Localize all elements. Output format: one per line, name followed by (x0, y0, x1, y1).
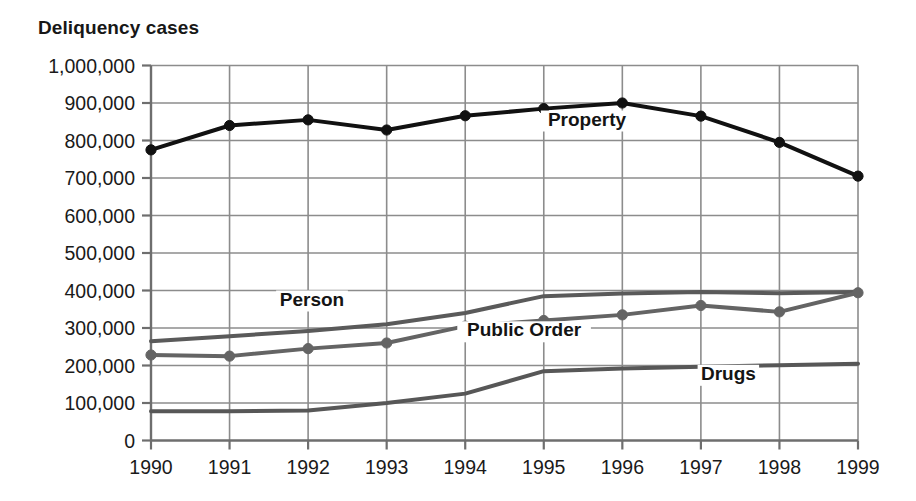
y-axis-tick-label: 900,000 (65, 92, 136, 114)
x-axis-tick-labels: 1990199119921993199419951996199719981999 (129, 456, 879, 478)
series-data-point (853, 288, 863, 298)
y-axis-tick-label: 700,000 (65, 167, 136, 189)
x-axis-tick-label: 1993 (365, 456, 408, 478)
series-data-point (853, 171, 863, 181)
y-axis-tick-label: 1,000,000 (48, 55, 135, 77)
x-axis-tick-label: 1990 (129, 456, 173, 478)
y-axis-tick-label: 100,000 (65, 392, 136, 414)
series-data-point (146, 350, 156, 360)
y-axis-tick-label: 400,000 (65, 280, 136, 302)
x-axis-tick-label: 1996 (601, 456, 644, 478)
series-line (151, 103, 858, 176)
series-data-point (774, 137, 784, 147)
series-annotation-label: Person (280, 289, 344, 310)
series-data-point (224, 351, 234, 361)
y-axis-tick-label: 300,000 (65, 317, 136, 339)
x-axis-tick-label: 1997 (679, 456, 722, 478)
line-chart-plot: 0100,000200,000300,000400,000500,000600,… (0, 0, 916, 501)
series-data-point (696, 111, 706, 121)
series-data-point (617, 310, 627, 320)
y-axis-tick-label: 0 (124, 430, 135, 452)
series-annotation-label: Drugs (701, 363, 756, 384)
y-axis-tick-label: 800,000 (65, 130, 136, 152)
series-data-point (382, 125, 392, 135)
series-data-point (146, 145, 156, 155)
x-axis-tick-label: 1992 (286, 456, 329, 478)
series-data-point (303, 344, 313, 354)
x-axis-tick-label: 1998 (758, 456, 801, 478)
series-property (146, 98, 863, 181)
series-data-point (696, 300, 706, 310)
chart-container: Deliquency cases 0100,000200,000300,0004… (0, 0, 916, 501)
series-data-point (460, 111, 470, 121)
series-data-point (303, 115, 313, 125)
x-axis-tick-label: 1999 (836, 456, 879, 478)
series-data-point (617, 98, 627, 108)
series-annotation-label: Public Order (467, 319, 582, 340)
x-axis-tick-label: 1995 (522, 456, 566, 478)
series-data-point (382, 338, 392, 348)
y-axis-tick-labels: 0100,000200,000300,000400,000500,000600,… (48, 55, 135, 452)
series-annotation-label: Property (548, 109, 627, 130)
y-axis-tick-label: 500,000 (65, 242, 136, 264)
y-axis-tick-label: 200,000 (65, 355, 136, 377)
x-axis-tick-label: 1991 (208, 456, 251, 478)
x-axis-tick-label: 1994 (444, 456, 488, 478)
series-data-point (774, 307, 784, 317)
y-axis-tick-label: 600,000 (65, 205, 136, 227)
series-data-point (224, 120, 234, 130)
